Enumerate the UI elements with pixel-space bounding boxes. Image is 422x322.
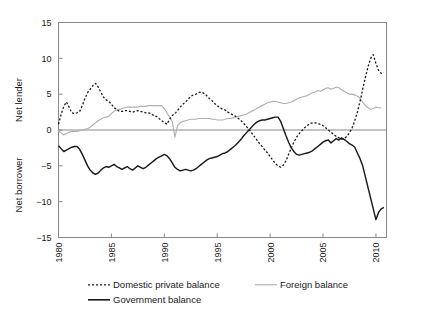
legend-label-1: Domestic private balance	[113, 279, 220, 290]
x-tick-label: 2005	[318, 243, 328, 263]
chart-legend: Domestic private balanceForeign balanceG…	[88, 279, 348, 305]
x-tick-label: 1985	[107, 243, 117, 263]
y-tick-label: 10	[41, 54, 51, 64]
series-line-government-balance	[59, 117, 384, 219]
y-tick-label: −15	[36, 233, 51, 243]
y-tick-label: 0	[46, 125, 51, 135]
legend-label-2: Foreign balance	[280, 279, 348, 290]
y-tick-label: −10	[36, 197, 51, 207]
x-tick-label: 1980	[54, 243, 64, 263]
y-tick-label: −5	[41, 161, 51, 171]
y-tick-label: 5	[46, 89, 51, 99]
x-tick-label: 1990	[160, 243, 170, 263]
x-tick-label: 2010	[371, 243, 381, 263]
chart-figure: −15−10−5051015 1980198519901995200020052…	[0, 0, 422, 322]
y-axis-title-net-borrower: Net borrower	[13, 158, 24, 213]
sectoral-balances-chart: −15−10−5051015 1980198519901995200020052…	[0, 0, 422, 322]
y-axis-title-net-lender: Net lender	[13, 78, 24, 122]
legend-label-3: Government balance	[113, 294, 201, 305]
x-tick-label: 2000	[266, 243, 276, 263]
series-line-domestic-private-balance	[59, 55, 384, 168]
x-tick-label: 1995	[213, 243, 223, 263]
y-tick-label: 15	[41, 18, 51, 28]
